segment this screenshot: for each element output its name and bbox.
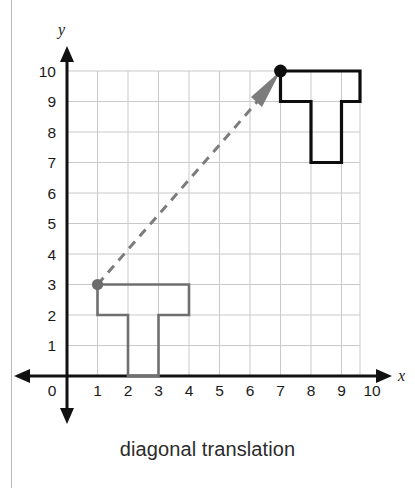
image-t-shape [281, 71, 361, 163]
x-tick-6: 6 [246, 382, 255, 399]
translation-vector-line [98, 86, 272, 285]
y-axis-negative-arrow [60, 408, 74, 424]
y-axis-label: y [56, 21, 66, 39]
x-tick-7: 7 [276, 382, 285, 399]
x-axis-negative-arrow [14, 369, 30, 383]
translation-figure: 0 1 2 3 4 5 6 7 8 9 10 1 2 3 4 5 6 7 8 9… [0, 0, 415, 488]
y-tick-3: 3 [47, 276, 56, 293]
y-tick-9: 9 [47, 93, 56, 110]
y-tick-8: 8 [47, 124, 56, 141]
origin-label: 0 [48, 382, 57, 399]
end-point-marker [274, 65, 287, 78]
x-tick-8: 8 [307, 382, 316, 399]
y-tick-7: 7 [47, 154, 56, 171]
y-tick-4: 4 [47, 246, 56, 263]
grid-lines [67, 71, 360, 376]
x-tick-4: 4 [185, 382, 194, 399]
x-tick-1: 1 [93, 382, 102, 399]
x-tick-5: 5 [215, 382, 224, 399]
x-axis-positive-arrow [376, 369, 392, 383]
x-tick-labels: 0 1 2 3 4 5 6 7 8 9 10 [48, 382, 381, 399]
x-tick-3: 3 [154, 382, 163, 399]
x-tick-2: 2 [124, 382, 133, 399]
y-axis-positive-arrow [60, 46, 74, 62]
start-point-marker [92, 279, 103, 290]
x-tick-9: 9 [337, 382, 346, 399]
y-tick-6: 6 [47, 185, 56, 202]
y-tick-2: 2 [47, 307, 56, 324]
y-tick-1: 1 [47, 337, 56, 354]
preimage-t-shape [98, 285, 190, 377]
axis-lines [20, 52, 386, 418]
axis-arrowheads [14, 46, 392, 424]
x-axis-label: x [397, 367, 405, 384]
y-tick-10: 10 [39, 63, 57, 80]
coordinate-plane: 0 1 2 3 4 5 6 7 8 9 10 1 2 3 4 5 6 7 8 9… [0, 0, 415, 488]
y-tick-labels: 1 2 3 4 5 6 7 8 9 10 [39, 63, 57, 355]
y-tick-5: 5 [47, 215, 56, 232]
figure-caption: diagonal translation [0, 438, 415, 461]
x-tick-10: 10 [363, 382, 381, 399]
